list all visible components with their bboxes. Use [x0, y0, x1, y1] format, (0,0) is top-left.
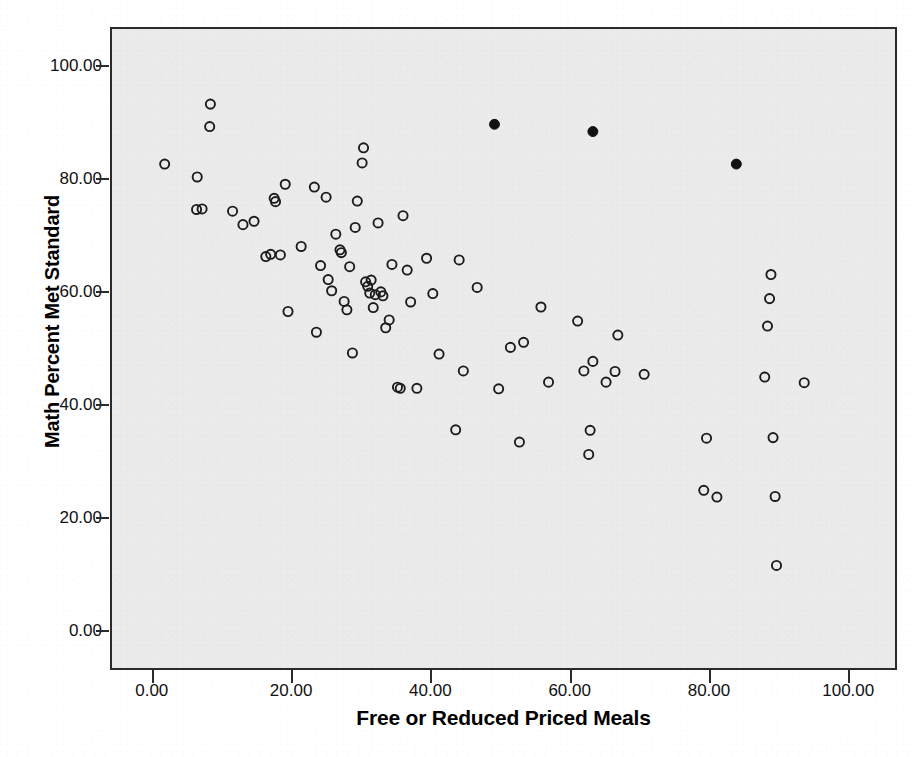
data-point: [494, 384, 503, 393]
data-point: [579, 366, 588, 375]
data-point: [473, 283, 482, 292]
data-point: [544, 378, 553, 387]
x-tick-mark: [709, 670, 711, 683]
data-point: [406, 297, 415, 306]
data-point: [193, 172, 202, 181]
y-tick-label: 0.00: [12, 621, 102, 641]
data-point: [249, 217, 258, 226]
y-tick-mark: [96, 291, 109, 293]
data-point: [310, 182, 319, 191]
data-point: [312, 328, 321, 337]
data-point: [586, 426, 595, 435]
data-point: [348, 348, 357, 357]
data-point: [490, 119, 500, 129]
data-point: [459, 366, 468, 375]
data-point: [331, 230, 340, 239]
data-point: [206, 100, 215, 109]
data-point: [800, 378, 809, 387]
data-point: [772, 561, 781, 570]
data-point: [588, 127, 598, 137]
y-tick-mark: [96, 65, 109, 67]
data-point: [327, 286, 336, 295]
data-point: [428, 289, 437, 298]
y-tick-mark: [96, 630, 109, 632]
data-point: [760, 373, 769, 382]
data-point: [160, 160, 169, 169]
x-tick-label: 0.00: [102, 681, 202, 701]
data-point: [588, 357, 597, 366]
data-point: [322, 193, 331, 202]
data-point: [765, 294, 774, 303]
plot-area: [110, 27, 897, 670]
data-point: [536, 302, 545, 311]
data-point: [198, 204, 207, 213]
x-tick-label: 40.00: [380, 681, 480, 701]
x-tick-label: 20.00: [241, 681, 341, 701]
data-point: [353, 197, 362, 206]
data-point: [297, 242, 306, 251]
x-tick-label: 80.00: [659, 681, 759, 701]
data-point: [768, 433, 777, 442]
data-point: [205, 122, 214, 131]
data-point: [702, 434, 711, 443]
data-point: [519, 338, 528, 347]
x-tick-mark: [570, 670, 572, 683]
data-point: [283, 307, 292, 316]
data-point: [238, 220, 247, 229]
data-point: [613, 330, 622, 339]
data-point: [610, 367, 619, 376]
y-tick-mark: [96, 178, 109, 180]
data-point: [345, 262, 354, 271]
data-point: [358, 158, 367, 167]
x-tick-mark: [152, 670, 154, 683]
data-point: [316, 261, 325, 270]
data-point: [374, 218, 383, 227]
x-axis-tick-layer: 0.0020.0040.0060.0080.00100.00: [0, 681, 915, 707]
data-point: [584, 450, 593, 459]
y-tick-mark: [96, 404, 109, 406]
data-point: [699, 486, 708, 495]
data-point: [324, 275, 333, 284]
scatter-plot-figure: 0.0020.0040.0060.0080.00100.00 0.0020.00…: [0, 0, 915, 757]
data-point: [385, 315, 394, 324]
x-tick-label: 60.00: [520, 681, 620, 701]
data-point: [387, 260, 396, 269]
data-point: [281, 180, 290, 189]
data-point: [403, 265, 412, 274]
x-tick-mark: [430, 670, 432, 683]
y-axis-title: Math Percent Met Standard: [41, 42, 64, 602]
data-point: [640, 370, 649, 379]
data-point: [771, 492, 780, 501]
data-point: [398, 211, 407, 220]
data-point: [342, 305, 351, 314]
x-tick-mark: [291, 670, 293, 683]
data-point: [601, 378, 610, 387]
y-tick-mark: [96, 517, 109, 519]
data-point: [455, 255, 464, 264]
data-point: [434, 350, 443, 359]
series-filled-circles: [490, 119, 742, 169]
data-point: [731, 159, 741, 169]
data-point: [412, 384, 421, 393]
data-point: [763, 322, 772, 331]
data-point: [369, 303, 378, 312]
data-point: [359, 143, 368, 152]
data-point: [766, 270, 775, 279]
data-point: [515, 438, 524, 447]
x-tick-label: 100.00: [798, 681, 898, 701]
data-point: [228, 207, 237, 216]
data-point: [573, 316, 582, 325]
data-point: [712, 492, 721, 501]
data-point: [276, 250, 285, 259]
data-point: [351, 223, 360, 232]
data-point-canvas: [112, 29, 895, 668]
series-open-circles: [160, 100, 809, 570]
x-axis-title: Free or Reduced Priced Meals: [110, 706, 897, 730]
data-point: [451, 425, 460, 434]
x-tick-mark: [848, 670, 850, 683]
data-point: [506, 343, 515, 352]
data-point: [422, 254, 431, 263]
